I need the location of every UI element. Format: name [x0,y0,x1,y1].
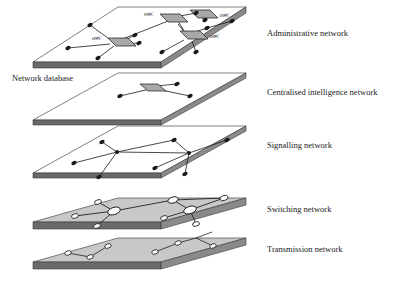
label-administrative-network: Administrative network [267,28,349,38]
label-transmission-network: Transmission network [267,244,343,254]
administrative-plane-front-edge [33,62,161,68]
layer-transmission: Transmission network [33,232,343,269]
omc-mid-right-label: OMC [210,33,220,39]
layered-network-diagram: Transmission network [0,0,414,294]
layer-centralised-intelligence: Centralised intelligence network [33,73,378,125]
label-centralised-intelligence-network: Centralised intelligence network [267,87,378,97]
signalling-hub-left [115,150,119,154]
omc-top-right-label: OMC [220,12,230,18]
signalling-hub-right [187,151,191,155]
layer-switching: Switching network [33,194,332,229]
nmc-label: NMC [143,11,154,17]
label-switching-network: Switching network [267,204,332,214]
omc-left-label: OMC [92,35,102,41]
layer-signalling: Signalling network [33,126,333,180]
label-network-database: Network database [12,73,73,83]
transmission-plane-front-edge [33,262,161,269]
diagram-canvas: Transmission network [0,0,414,294]
layer-administrative: NMC OMC OMC OMC Administrative network [33,7,349,68]
signalling-plane-top [33,126,246,173]
centralised-plane-front-edge [33,120,161,125]
label-signalling-network: Signalling network [267,140,333,150]
